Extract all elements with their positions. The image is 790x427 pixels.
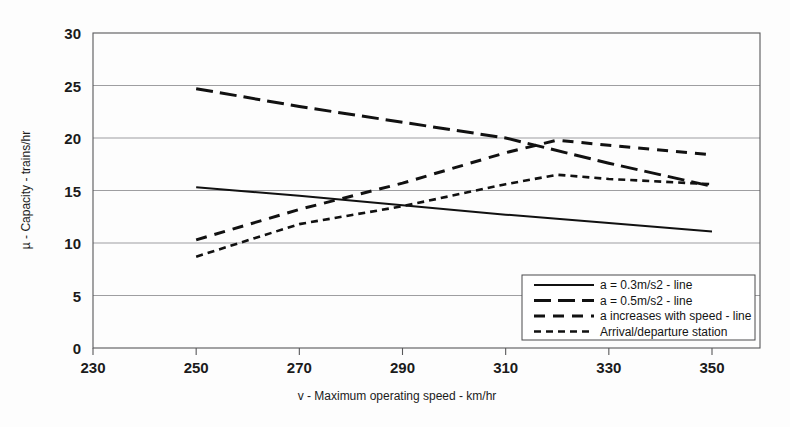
y-tick-label-30: 30: [64, 25, 81, 42]
x-tick-label-230: 230: [80, 359, 105, 376]
legend-label-1: a = 0.5m/s2 - line: [600, 294, 693, 308]
chart-container: 230250270290310330350 051015202530 v - M…: [0, 0, 790, 427]
x-tick-label-270: 270: [287, 359, 312, 376]
x-axis-title: v - Maximum operating speed - km/hr: [298, 389, 497, 403]
capacity-vs-speed-line-chart: 230250270290310330350 051015202530 v - M…: [0, 0, 790, 427]
y-tick-label-10: 10: [64, 235, 81, 252]
y-tick-label-15: 15: [64, 183, 81, 200]
y-tick-label-25: 25: [64, 78, 81, 95]
y-axis-title: µ - Capacity - trains/hr: [19, 131, 33, 249]
x-tick-label-250: 250: [184, 359, 209, 376]
legend-label-0: a = 0.3m/s2 - line: [600, 278, 693, 292]
y-tick-label-5: 5: [73, 288, 81, 305]
x-tick-label-330: 330: [596, 359, 621, 376]
y-tick-label-20: 20: [64, 130, 81, 147]
x-tick-label-310: 310: [493, 359, 518, 376]
legend-label-3: Arrival/departure station: [600, 325, 727, 339]
y-tick-label-0: 0: [73, 340, 81, 357]
x-tick-label-290: 290: [390, 359, 415, 376]
chart-legend[interactable]: a = 0.3m/s2 - linea = 0.5m/s2 - linea in…: [522, 275, 755, 340]
x-tick-label-350: 350: [699, 359, 724, 376]
legend-label-2: a increases with speed - line: [600, 309, 752, 323]
